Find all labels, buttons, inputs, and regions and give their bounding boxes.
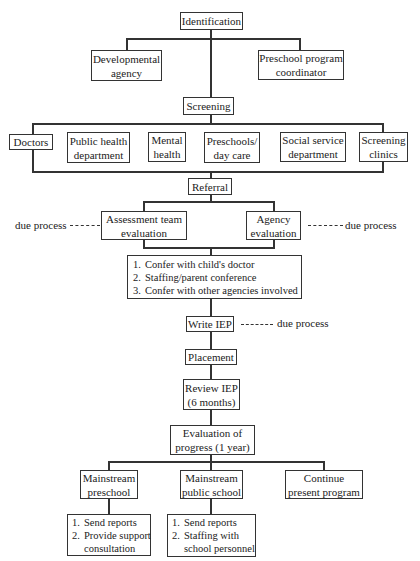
node-label: preschool — [88, 485, 131, 499]
node-label: Assessment team — [106, 212, 182, 226]
connector — [32, 171, 384, 173]
list-item: consultation — [72, 542, 135, 555]
preschools-daycare-node: Preschools/ day care — [204, 132, 260, 163]
node-label: health — [154, 147, 181, 161]
connector — [143, 201, 145, 211]
node-label: Screening — [362, 133, 406, 147]
node-label: day care — [214, 148, 251, 162]
developmental-agency-node: Developmental agency — [91, 50, 162, 81]
node-label: Mental — [151, 133, 182, 147]
node-label: (6 months) — [188, 395, 236, 409]
connector — [323, 461, 325, 470]
node-label: Agency — [256, 212, 290, 226]
social-service-node: Social service department — [280, 132, 346, 162]
list-item: 2.Provide support — [72, 529, 151, 542]
list-item: school personnel — [172, 542, 255, 555]
confer-steps-node: 1.Confer with child's doctor 2.Staffing/… — [127, 255, 302, 299]
list-item: 1.Send reports — [172, 516, 237, 529]
node-label: Identification — [182, 14, 241, 28]
list-item: 2.Staffing/parent conference — [133, 271, 256, 284]
mainstream-preschool-node: Mainstream preschool — [80, 470, 138, 499]
screening-clinics-node: Screening clinics — [359, 132, 408, 162]
write-iep-node: Write IEP — [186, 316, 234, 332]
agency-evaluation-node: Agency evaluation — [246, 211, 301, 240]
preschool-steps-node: 1.Send reports 2.Provide support consult… — [67, 514, 151, 556]
node-label: Screening — [187, 99, 231, 113]
node-label: department — [288, 147, 337, 161]
connector — [210, 498, 212, 514]
node-label: evaluation — [121, 226, 167, 240]
node-label: public school — [182, 485, 241, 499]
mental-health-node: Mental health — [148, 132, 186, 162]
node-label: department — [74, 148, 123, 162]
node-label: Developmental — [93, 52, 160, 66]
connector — [210, 410, 212, 425]
node-label: Preschools/ — [207, 134, 258, 148]
node-label: Social service — [282, 133, 343, 147]
node-label: Public health — [70, 134, 128, 148]
continue-program-node: Continue present program — [285, 470, 363, 499]
assessment-team-node: Assessment team evaluation — [101, 211, 187, 240]
doctors-node: Doctors — [9, 134, 53, 150]
dashed-connector — [308, 225, 343, 226]
node-label: Referral — [192, 180, 228, 194]
node-label: progress (1 year) — [175, 440, 250, 454]
node-label: Write IEP — [188, 317, 232, 331]
placement-node: Placement — [185, 349, 237, 365]
connector — [126, 38, 300, 40]
connector — [108, 461, 325, 463]
screening-node: Screening — [183, 97, 234, 115]
dashed-connector — [70, 225, 100, 226]
connector — [210, 298, 212, 316]
node-label: Doctors — [14, 135, 49, 149]
list-item: 1.Send reports — [72, 516, 137, 529]
connector — [210, 331, 212, 349]
list-item: 1.Confer with child's doctor — [133, 258, 255, 271]
due-process-left-label: due process — [15, 218, 67, 232]
due-process-right-label: due process — [345, 218, 397, 232]
identification-node: Identification — [180, 12, 243, 30]
connector — [126, 38, 128, 50]
connector — [32, 123, 384, 125]
mainstream-public-school-node: Mainstream public school — [180, 470, 243, 499]
node-label: Preschool program — [259, 51, 342, 65]
list-item: 3.Confer with other agencies involved — [133, 284, 298, 297]
node-label: coordinator — [276, 65, 327, 79]
node-label: present program — [288, 485, 360, 499]
node-label: Review IEP — [185, 381, 238, 395]
preschool-coordinator-node: Preschool program coordinator — [258, 50, 344, 80]
node-label: agency — [111, 66, 142, 80]
connector — [143, 201, 275, 203]
node-label: Mainstream — [185, 471, 238, 485]
list-item: 2.Staffing with — [172, 529, 239, 542]
node-label: evaluation — [251, 226, 297, 240]
connector — [210, 364, 212, 379]
node-label: Continue — [304, 471, 344, 485]
dashed-connector — [241, 324, 273, 325]
referral-node: Referral — [188, 178, 232, 195]
review-iep-node: Review IEP (6 months) — [183, 379, 240, 410]
node-label: Placement — [188, 350, 234, 364]
due-process-iep-label: due process — [277, 316, 329, 330]
public-school-steps-node: 1.Send reports 2.Staffing with school pe… — [167, 514, 256, 557]
public-health-node: Public health department — [67, 132, 130, 163]
node-label: Mainstream — [83, 471, 136, 485]
connector — [273, 201, 275, 211]
node-label: clinics — [369, 147, 398, 161]
connector — [210, 247, 212, 255]
connector — [299, 38, 301, 50]
connector — [143, 247, 275, 249]
connector — [108, 498, 110, 514]
connector — [108, 461, 110, 470]
evaluation-progress-node: Evaluation of progress (1 year) — [170, 425, 255, 455]
node-label: Evaluation of — [183, 426, 243, 440]
connector — [210, 461, 212, 470]
